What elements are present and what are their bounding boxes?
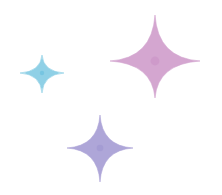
purple-sparkle-icon [67, 115, 133, 182]
sparkles-canvas [0, 0, 222, 195]
pink-sparkle-icon [110, 15, 200, 98]
blue-sparkle-icon [20, 55, 64, 93]
